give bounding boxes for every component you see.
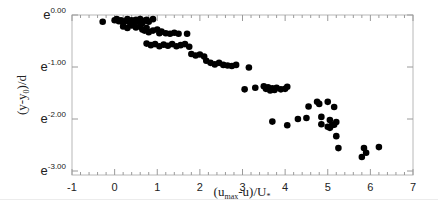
- data-points: [99, 16, 382, 160]
- data-point: [324, 99, 331, 106]
- x-tick-label: 1: [154, 181, 160, 193]
- data-point: [150, 16, 157, 23]
- x-tick-label: -1: [67, 181, 77, 193]
- y-axis-title: (y-y0)/d: [14, 74, 31, 115]
- data-point: [241, 86, 248, 93]
- data-point: [376, 144, 383, 151]
- data-point: [318, 114, 325, 121]
- data-point: [295, 116, 302, 123]
- scatter-chart: -101234567 e0.00e-1.00e-2.00e-3.00 (umax…: [0, 0, 438, 222]
- data-point: [175, 30, 182, 37]
- y-tick-label: e-3.00: [41, 162, 67, 178]
- y-tick-label: e-1.00: [41, 58, 67, 74]
- x-tick-label: 6: [367, 181, 373, 193]
- bottom-separator: [0, 199, 438, 200]
- x-tick-label: 4: [282, 181, 288, 193]
- plot-frame: [72, 15, 413, 175]
- x-tick-label: 2: [197, 181, 203, 193]
- x-axis-ticks: [72, 15, 413, 175]
- data-point: [303, 115, 310, 122]
- data-point: [99, 18, 106, 25]
- data-point: [269, 118, 276, 125]
- x-tick-label: 7: [410, 181, 416, 193]
- x-tick-label: 0: [112, 181, 118, 193]
- data-point: [333, 133, 340, 140]
- data-point: [305, 103, 312, 110]
- data-point: [284, 83, 291, 90]
- data-point: [233, 62, 240, 69]
- data-point: [331, 104, 338, 111]
- y-tick-label: e-2.00: [41, 110, 67, 126]
- x-tick-label: 5: [325, 181, 331, 193]
- y-axis-tick-labels: e0.00e-1.00e-2.00e-3.00: [41, 6, 67, 178]
- data-point: [335, 145, 342, 152]
- data-point: [316, 101, 323, 108]
- data-point: [184, 30, 191, 37]
- data-point: [186, 43, 193, 50]
- data-point: [333, 119, 340, 126]
- data-point: [318, 121, 325, 128]
- data-point: [359, 154, 366, 161]
- data-point: [284, 122, 291, 129]
- data-point: [246, 64, 253, 71]
- y-tick-label: e0.00: [43, 6, 66, 22]
- data-point: [252, 85, 259, 92]
